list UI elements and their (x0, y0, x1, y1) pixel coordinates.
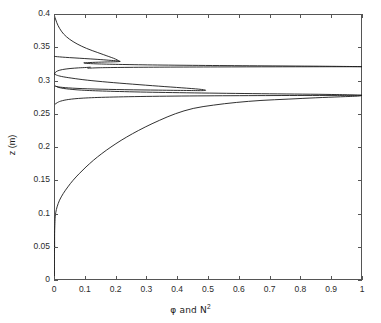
x-tick-top (116, 14, 117, 18)
curve-phi-small-loop (55, 67, 91, 74)
curve-phi-middle-lobe (55, 74, 206, 91)
x-tick-bottom (362, 276, 363, 280)
x-axis-title: φ and N2 (0, 303, 381, 315)
y-tick-label: 0.25 (12, 108, 50, 118)
y-axis-title: z (m) (7, 115, 17, 175)
x-tick-top (300, 14, 301, 18)
y-tick-left (54, 180, 58, 181)
curve-phi-lower (55, 95, 362, 246)
x-tick-top (208, 14, 209, 18)
curve-N2-peak-upper (84, 63, 362, 68)
y-tick-left (54, 147, 58, 148)
x-tick-bottom (239, 276, 240, 280)
y-tick-label: 0.15 (12, 174, 50, 184)
y-tick-left (54, 47, 58, 48)
y-tick-right (358, 47, 362, 48)
y-tick-right (358, 147, 362, 148)
y-tick-left (54, 280, 58, 281)
y-tick-left (54, 214, 58, 215)
y-tick-right (358, 14, 362, 15)
y-tick-label: 0.3 (12, 75, 50, 85)
x-axis-title-superscript: 2 (207, 303, 211, 310)
figure-canvas: 00.10.20.30.40.50.60.70.80.9100.050.10.1… (0, 0, 381, 323)
y-tick-label: 0.1 (12, 208, 50, 218)
y-tick-right (358, 247, 362, 248)
x-tick-bottom (85, 276, 86, 280)
x-tick-bottom (208, 276, 209, 280)
x-tick-bottom (116, 276, 117, 280)
x-tick-top (331, 14, 332, 18)
x-tick-bottom (270, 276, 271, 280)
y-tick-left (54, 81, 58, 82)
y-tick-right (358, 114, 362, 115)
y-tick-label: 0.05 (12, 241, 50, 251)
y-tick-left (54, 114, 58, 115)
x-tick-bottom (331, 276, 332, 280)
y-tick-left (54, 14, 58, 15)
x-tick-bottom (177, 276, 178, 280)
curve-phi-top-tail (54, 14, 119, 61)
y-tick-right (358, 214, 362, 215)
y-tick-label: 0 (12, 274, 50, 284)
x-tick-bottom (300, 276, 301, 280)
x-tick-label: 1 (342, 284, 381, 294)
plot-curves (54, 14, 362, 280)
x-axis-title-text: φ and N (170, 305, 207, 315)
y-tick-right (358, 81, 362, 82)
y-tick-label: 0.4 (12, 8, 50, 18)
x-tick-top (239, 14, 240, 18)
y-tick-left (54, 247, 58, 248)
x-tick-top (270, 14, 271, 18)
y-tick-label: 0.35 (12, 41, 50, 51)
x-tick-bottom (146, 276, 147, 280)
x-tick-top (362, 14, 363, 18)
x-tick-top (85, 14, 86, 18)
y-tick-right (358, 280, 362, 281)
x-tick-top (177, 14, 178, 18)
y-tick-right (358, 180, 362, 181)
y-tick-label: 0.2 (12, 141, 50, 151)
x-tick-top (146, 14, 147, 18)
